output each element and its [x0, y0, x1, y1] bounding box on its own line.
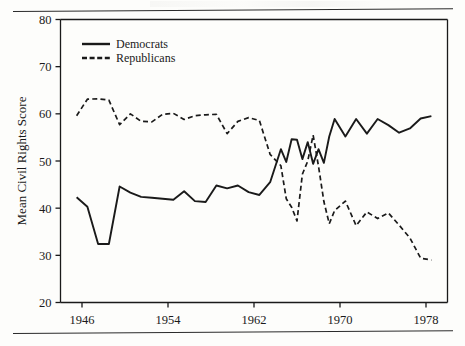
- y-axis-label: Mean Civil Rights Score: [14, 96, 29, 225]
- legend-label-republicans: Republicans: [116, 51, 176, 65]
- legend-label-democrats: Democrats: [116, 37, 168, 51]
- y-tick-label: 40: [39, 202, 52, 216]
- x-tick-label: 1962: [242, 313, 267, 327]
- y-tick-label: 50: [39, 155, 52, 169]
- x-tick-label: 1978: [414, 313, 439, 327]
- y-tick-label: 30: [39, 249, 52, 263]
- series-line-republicans: [77, 99, 432, 260]
- series-line-democrats: [77, 116, 432, 244]
- x-tick-label: 1970: [328, 313, 353, 327]
- legend: Democrats Republicans: [82, 37, 176, 65]
- y-tick-label: 80: [39, 13, 52, 27]
- y-tick-label: 20: [39, 296, 52, 310]
- y-tick-label: 60: [39, 107, 52, 121]
- y-tick-label: 70: [39, 60, 52, 74]
- x-tick-label: 1954: [156, 313, 182, 327]
- series-group: [77, 99, 432, 260]
- x-axis-ticks: 19461954196219701978: [70, 303, 439, 327]
- line-chart: 20304050607080 19461954196219701978 Mean…: [0, 0, 465, 346]
- y-axis-ticks: 20304050607080: [39, 13, 61, 310]
- x-tick-label: 1946: [70, 313, 95, 327]
- figure-container: 20304050607080 19461954196219701978 Mean…: [0, 0, 465, 346]
